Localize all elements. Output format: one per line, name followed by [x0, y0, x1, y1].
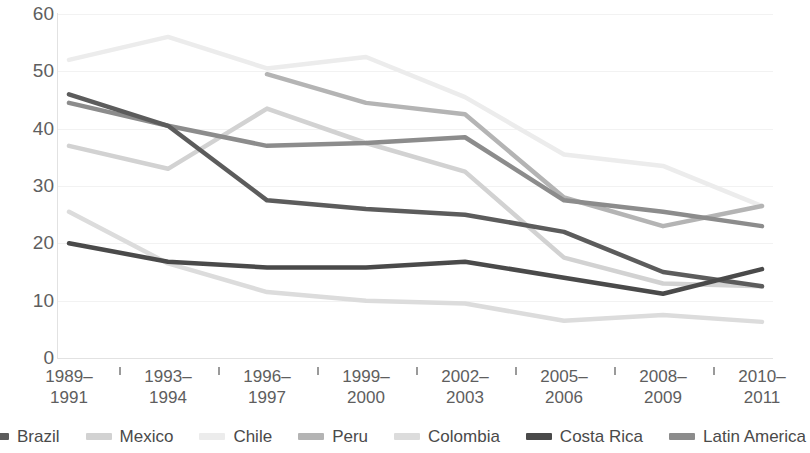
y-axis-tick-label: 30 — [14, 176, 54, 195]
x-axis-tick-label-line: 1996– — [219, 366, 315, 387]
x-axis-tick-label-line: 1999– — [318, 366, 414, 387]
series-line-brazil — [69, 94, 762, 286]
x-axis-tick-label-line: 2010– — [714, 366, 810, 387]
y-axis-tick-label: 20 — [14, 233, 54, 252]
legend-swatch-icon — [0, 433, 9, 440]
legend-item-costa-rica[interactable]: Costa Rica — [526, 428, 643, 445]
legend-swatch-icon — [669, 433, 695, 440]
legend-label: Latin America — [703, 428, 806, 445]
y-axis-tick-label: 0 — [14, 348, 54, 367]
y-axis-tick-label: 60 — [14, 4, 54, 23]
legend-swatch-icon — [394, 433, 420, 440]
series-line-colombia — [69, 212, 762, 322]
x-axis-tick-label-line: 1994 — [120, 387, 216, 408]
x-axis-tick-label: 2010–2011 — [714, 366, 810, 408]
legend-item-peru[interactable]: Peru — [298, 428, 368, 445]
x-axis-tick-label-line: 2000 — [318, 387, 414, 408]
legend-item-colombia[interactable]: Colombia — [394, 428, 500, 445]
x-axis-tick-label-line: 1991 — [21, 387, 117, 408]
x-axis-tick-label-line: 2005– — [516, 366, 612, 387]
x-axis-tick-label-line: 1989– — [21, 366, 117, 387]
legend-item-brazil[interactable]: Brazil — [0, 428, 60, 445]
x-axis-tick-label: 1993–1994 — [120, 366, 216, 408]
legend-item-chile[interactable]: Chile — [199, 428, 272, 445]
x-axis-tick-label-line: 2009 — [615, 387, 711, 408]
x-axis-tick-label: 2002–2003 — [417, 366, 513, 408]
legend-label: Colombia — [428, 428, 500, 445]
x-axis-tick-labels: 1989–19911993–19941996–19971999–20002002… — [58, 366, 773, 414]
legend-label: Chile — [233, 428, 272, 445]
series-line-chile — [69, 37, 762, 206]
y-axis-tick-label: 40 — [14, 119, 54, 138]
x-axis-tick-label: 1999–2000 — [318, 366, 414, 408]
legend-swatch-icon — [298, 433, 324, 440]
x-axis-tick-label: 2005–2006 — [516, 366, 612, 408]
x-axis-tick-label-line: 2003 — [417, 387, 513, 408]
x-axis-tick-label-line: 1997 — [219, 387, 315, 408]
series-lines — [58, 14, 773, 358]
legend-label: Costa Rica — [560, 428, 643, 445]
legend-label: Mexico — [120, 428, 174, 445]
x-axis-tick-label-line: 2002– — [417, 366, 513, 387]
x-axis-tick-label-line: 1993– — [120, 366, 216, 387]
legend-swatch-icon — [526, 433, 552, 440]
legend-swatch-icon — [199, 433, 225, 440]
x-axis-tick-label-line: 2006 — [516, 387, 612, 408]
plot-area — [58, 14, 773, 358]
legend-label: Peru — [332, 428, 368, 445]
series-line-peru — [267, 74, 762, 226]
x-axis-line — [57, 358, 773, 359]
x-axis-tick-label: 2008–2009 — [615, 366, 711, 408]
legend-item-mexico[interactable]: Mexico — [86, 428, 174, 445]
x-axis-tick-label: 1989–1991 — [21, 366, 117, 408]
x-axis-tick-label: 1996–1997 — [219, 366, 315, 408]
legend-swatch-icon — [86, 433, 112, 440]
chart-legend: BrazilMexicoChilePeruColombiaCosta RicaL… — [0, 421, 789, 451]
y-axis-tick-label: 50 — [14, 61, 54, 80]
legend-label: Brazil — [17, 428, 60, 445]
x-axis-tick-label-line: 2008– — [615, 366, 711, 387]
series-line-mexico — [69, 109, 762, 287]
x-axis-tick-label-line: 2011 — [714, 387, 810, 408]
legend-item-latin-america[interactable]: Latin America — [669, 428, 806, 445]
y-axis-tick-label: 10 — [14, 291, 54, 310]
